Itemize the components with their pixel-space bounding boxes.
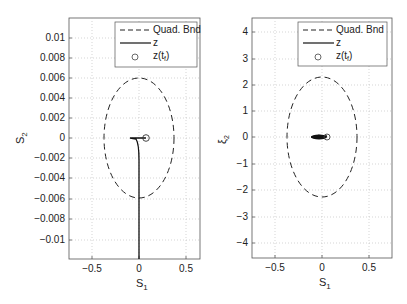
svg-text:−0.01: −0.01 xyxy=(40,234,66,245)
svg-text:−0.5: −0.5 xyxy=(82,263,102,274)
svg-text:−4: −4 xyxy=(237,237,249,248)
left-xlabel: S1 xyxy=(136,277,148,292)
svg-text:0.01: 0.01 xyxy=(46,32,66,43)
right-xtick-labels: −0.5 0 0.5 xyxy=(265,262,376,273)
svg-text:0: 0 xyxy=(242,131,248,142)
left-legend: Quad. Bnd z z(tf) xyxy=(115,22,201,67)
right-xlabel: S1 xyxy=(319,276,331,291)
figure: 0.01 0.008 0.006 0.004 0.002 0 −0.002 −0… xyxy=(0,0,407,304)
svg-text:−0.006: −0.006 xyxy=(34,193,65,204)
svg-text:−2: −2 xyxy=(237,184,249,195)
svg-text:−3: −3 xyxy=(237,211,249,222)
svg-text:0: 0 xyxy=(136,263,142,274)
right-plot: 4 3 2 1 0 −1 −2 −3 −4 −0.5 0 0.5 S1 ξ2 Q… xyxy=(216,18,392,291)
svg-text:0: 0 xyxy=(319,262,325,273)
svg-text:2: 2 xyxy=(242,79,248,90)
svg-text:−0.004: −0.004 xyxy=(34,172,65,183)
right-ytick-labels: 4 3 2 1 0 −1 −2 −3 −4 xyxy=(237,26,249,248)
right-ylabel: ξ2 xyxy=(216,135,230,144)
svg-text:4: 4 xyxy=(242,26,248,37)
svg-text:0.5: 0.5 xyxy=(362,262,376,273)
left-xtick-labels: −0.5 0 0.5 xyxy=(82,263,193,274)
svg-text:0: 0 xyxy=(59,132,65,143)
svg-text:z(tf): z(tf) xyxy=(336,50,352,62)
svg-text:Quad. Bnd: Quad. Bnd xyxy=(153,24,201,35)
left-ylabel: S2 xyxy=(14,132,29,144)
svg-text:−0.5: −0.5 xyxy=(265,262,285,273)
svg-text:Quad. Bnd: Quad. Bnd xyxy=(336,24,384,35)
svg-text:0.006: 0.006 xyxy=(40,72,65,83)
svg-text:1: 1 xyxy=(242,105,248,116)
svg-text:0.004: 0.004 xyxy=(40,92,65,103)
svg-text:0.5: 0.5 xyxy=(179,263,193,274)
svg-text:z(tf): z(tf) xyxy=(153,50,169,62)
svg-text:−0.008: −0.008 xyxy=(34,213,65,224)
right-legend: Quad. Bnd z z(tf) xyxy=(298,22,387,66)
svg-text:−1: −1 xyxy=(237,158,249,169)
svg-text:z: z xyxy=(336,37,341,48)
svg-text:−0.002: −0.002 xyxy=(34,152,65,163)
left-ytick-labels: 0.01 0.008 0.006 0.004 0.002 0 −0.002 −0… xyxy=(34,32,65,245)
svg-text:0.002: 0.002 xyxy=(40,112,65,123)
svg-text:z: z xyxy=(153,37,158,48)
svg-text:0.008: 0.008 xyxy=(40,52,65,63)
left-plot: 0.01 0.008 0.006 0.004 0.002 0 −0.002 −0… xyxy=(14,18,201,292)
svg-text:3: 3 xyxy=(242,53,248,64)
